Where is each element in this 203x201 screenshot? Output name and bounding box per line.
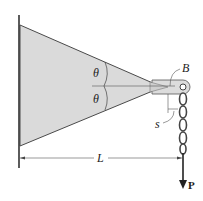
l-arrow-left bbox=[20, 157, 25, 160]
chain bbox=[180, 93, 187, 154]
load-label: P bbox=[188, 179, 195, 191]
theta-label-lower: θ bbox=[93, 92, 99, 106]
triangular-plate bbox=[20, 25, 155, 146]
s-leader bbox=[163, 111, 174, 123]
l-arrow-right bbox=[177, 157, 182, 160]
diagram-canvas: θ θ s B L P bbox=[0, 0, 203, 201]
length-label: L bbox=[96, 151, 104, 165]
point-b-label: B bbox=[182, 61, 190, 75]
s-label: s bbox=[155, 117, 160, 131]
theta-label-upper: θ bbox=[93, 66, 99, 80]
load-arrow-head bbox=[179, 180, 187, 189]
pin-b bbox=[180, 84, 186, 90]
